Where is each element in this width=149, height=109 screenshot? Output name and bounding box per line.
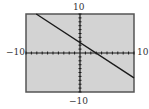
- plot-area: [0, 0, 149, 109]
